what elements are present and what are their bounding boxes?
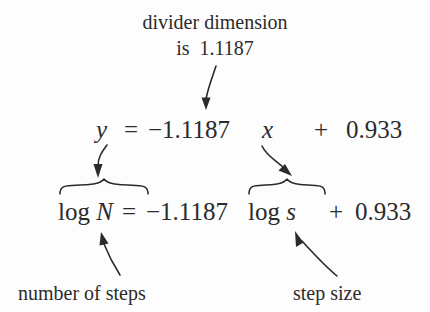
over-brace-icon-right xyxy=(249,179,325,194)
equation-generic-y: y xyxy=(96,117,107,142)
label-number-of-steps: number of steps xyxy=(18,283,146,303)
equation-generic-slope: −1.1187 xyxy=(148,117,230,142)
equation-generic-equals: = xyxy=(124,117,138,142)
equation-applied-intercept: 0.933 xyxy=(355,199,411,224)
equation-generic-x: x xyxy=(262,117,273,142)
equation-applied-equals: = xyxy=(122,199,136,224)
equation-generic-plus: + xyxy=(314,117,328,142)
curved-down-arrow-icon-right xyxy=(262,146,292,176)
label-step-size: step size xyxy=(293,283,361,303)
curved-up-arrow-icon-left xyxy=(100,232,121,275)
equation-applied-plus: + xyxy=(329,199,343,224)
log-prefix-right: log xyxy=(248,198,286,225)
equation-applied-variable: log s xyxy=(248,199,296,224)
log-prefix-left: log xyxy=(58,198,96,225)
down-arrow-icon xyxy=(202,66,217,110)
variable-N: N xyxy=(96,198,113,225)
equation-applied-slope: −1.1187 xyxy=(146,199,228,224)
divider-dimension-figure: divider dimension is 1.1187 y = −1.1187 … xyxy=(0,0,430,312)
curved-up-arrow-icon-right xyxy=(295,231,337,276)
caption-line-1: divider dimension xyxy=(0,12,430,32)
curved-down-arrow-icon-left xyxy=(94,145,108,178)
caption-line-2: is 1.1187 xyxy=(0,38,430,58)
equation-generic-intercept: 0.933 xyxy=(346,117,402,142)
over-brace-icon-left xyxy=(60,179,148,194)
variable-s: s xyxy=(286,198,296,225)
equation-applied-lhs: log N xyxy=(58,199,113,224)
